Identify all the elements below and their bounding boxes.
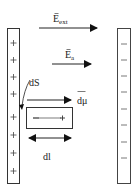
ds-annotation: dS	[19, 77, 40, 110]
e-a-label: Ea	[65, 49, 75, 62]
e-ext-label: Eext	[53, 13, 68, 26]
e-a-vector: Ea	[52, 49, 91, 64]
dl-dimension: dl	[29, 138, 71, 162]
left-plate-positive	[8, 29, 20, 184]
dipole-element	[27, 108, 73, 129]
e-ext-vector: Eext	[39, 13, 97, 28]
right-plate-negative	[118, 29, 131, 184]
dmu-vector: dμ	[27, 92, 87, 107]
dl-label: dl	[43, 151, 51, 162]
dmu-label: dμ	[77, 95, 87, 106]
ds-label: dS	[29, 77, 40, 88]
capacitor-diagram: Eext Ea dS dμ dl	[0, 0, 137, 194]
